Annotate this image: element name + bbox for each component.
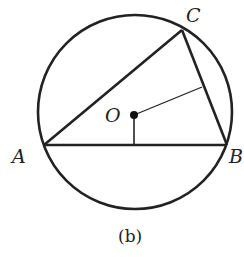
label-o: O <box>105 104 121 126</box>
label-a: A <box>10 145 26 167</box>
perpendicular-to-bc <box>134 87 202 115</box>
circle-diagram: C O A B (b) <box>0 0 244 257</box>
label-b: B <box>228 145 243 167</box>
label-c: C <box>186 4 201 26</box>
chord-bc <box>182 30 227 145</box>
center-point-o <box>130 111 138 119</box>
chord-ac <box>44 30 182 145</box>
figure-caption: (b) <box>118 226 142 246</box>
